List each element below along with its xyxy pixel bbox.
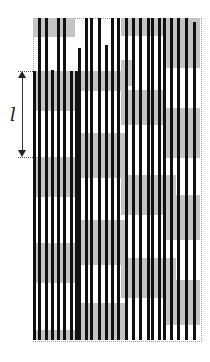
black-bar (170, 18, 173, 340)
black-bar (151, 18, 154, 340)
black-bar (125, 18, 128, 340)
dimension-label: l (10, 104, 16, 125)
black-bar (117, 18, 120, 340)
black-bar (193, 22, 196, 340)
black-bar (70, 71, 73, 340)
black-bar (57, 18, 60, 340)
arrow-up-icon (18, 71, 26, 78)
black-bar (63, 18, 66, 340)
dimension-tick-bottom (18, 157, 33, 158)
black-bar (85, 18, 88, 340)
black-bar (111, 18, 114, 340)
black-bar (147, 18, 150, 340)
black-bar (90, 18, 93, 340)
bar-block-diagram: l (0, 0, 210, 362)
black-bar (98, 18, 101, 340)
arrow-down-icon (18, 150, 26, 157)
black-bar (38, 18, 41, 340)
black-bar (139, 18, 142, 340)
black-bar (163, 18, 166, 340)
dimension-line (22, 73, 23, 155)
black-bar (51, 70, 54, 340)
black-bar (185, 18, 188, 340)
black-bar (45, 18, 48, 340)
black-bar (132, 18, 135, 340)
black-bar (105, 45, 108, 340)
black-bar (177, 18, 180, 340)
black-bar (78, 48, 81, 340)
black-bar (158, 18, 161, 340)
black-bar (33, 71, 36, 340)
